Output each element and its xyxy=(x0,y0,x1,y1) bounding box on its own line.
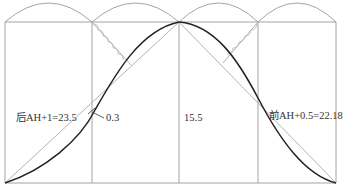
right-slope-label: 前AH+0.5=22.18 xyxy=(269,111,343,122)
top-arc-1 xyxy=(5,3,92,22)
top-arc-2 xyxy=(92,3,179,22)
left-slope-label: 后AH+1=23.5 xyxy=(16,113,77,124)
middle-label: 15.5 xyxy=(184,113,202,124)
profile-curve xyxy=(5,22,336,183)
right-chord xyxy=(179,22,336,183)
left-scallops xyxy=(93,24,123,60)
right-diagonal xyxy=(223,22,258,63)
scallop-marks xyxy=(93,24,257,60)
top-arc-4 xyxy=(258,3,336,22)
offset-label: 0.3 xyxy=(106,113,119,124)
offset-leader xyxy=(92,112,104,118)
chords xyxy=(5,22,336,183)
top-arc-3 xyxy=(179,3,258,22)
